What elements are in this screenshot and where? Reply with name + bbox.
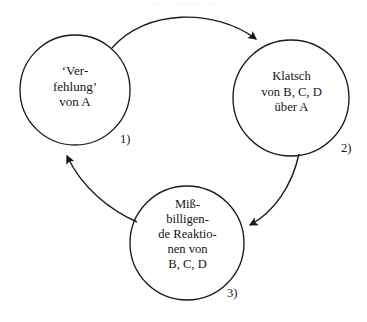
node-number-2: 2) xyxy=(341,142,351,155)
node-label-1: ‘Ver- fehlung’ von A xyxy=(20,63,130,110)
node-label-3: Miß- billigen- de Reaktio- nen von B, C,… xyxy=(130,197,245,272)
edge-arrow-2-to-3 xyxy=(250,154,299,225)
edge-arrow-1-to-2 xyxy=(112,17,256,48)
node-label-2: Klatsch von B, C, D über A xyxy=(233,69,350,116)
cycle-diagram-canvas xyxy=(0,0,367,322)
edge-arrow-3-to-1 xyxy=(67,156,137,222)
node-number-3: 3) xyxy=(227,287,237,300)
node-number-1: 1) xyxy=(120,133,130,146)
